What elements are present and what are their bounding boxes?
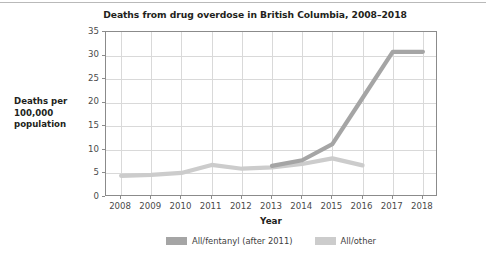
x-tick-mark <box>211 196 212 199</box>
series-line <box>272 52 423 166</box>
legend-label: All/other <box>341 236 377 246</box>
y-axis-label-line-2: 100,000 <box>14 108 74 120</box>
y-axis-label: Deaths per 100,000 population <box>14 96 74 131</box>
x-tick-mark <box>422 196 423 199</box>
x-tick-mark <box>362 196 363 199</box>
x-tick-label: 2014 <box>284 202 318 211</box>
x-tick-mark <box>180 196 181 199</box>
chart-figure: Deaths from drug overdose in British Col… <box>0 0 486 270</box>
x-tick-mark <box>271 196 272 199</box>
y-tick-label: 35 <box>73 27 99 36</box>
y-tick-label: 5 <box>73 168 99 177</box>
y-tick-label: 0 <box>73 192 99 201</box>
chart-title: Deaths from drug overdose in British Col… <box>80 9 430 20</box>
series-line <box>121 158 362 175</box>
legend-label: All/fentanyl (after 2011) <box>192 236 293 246</box>
x-tick-label: 2018 <box>405 202 439 211</box>
legend-entry[interactable]: All/other <box>315 236 377 246</box>
x-tick-label: 2010 <box>163 202 197 211</box>
x-tick-label: 2016 <box>345 202 379 211</box>
plot-area <box>105 31 437 196</box>
legend-swatch <box>315 237 336 245</box>
x-tick-mark <box>150 196 151 199</box>
x-tick-label: 2015 <box>314 202 348 211</box>
x-tick-mark <box>392 196 393 199</box>
source-credit-wrapper: INFORMATION FROM BELZAK & HALVERSON, 201… <box>448 40 478 255</box>
x-tick-label: 2012 <box>224 202 258 211</box>
x-tick-label: 2013 <box>254 202 288 211</box>
series-layer <box>106 32 438 197</box>
x-tick-mark <box>301 196 302 199</box>
y-tick-label: 30 <box>73 50 99 59</box>
x-tick-mark <box>241 196 242 199</box>
y-tick-label: 10 <box>73 145 99 154</box>
x-tick-label: 2017 <box>375 202 409 211</box>
legend-entry[interactable]: All/fentanyl (after 2011) <box>166 236 293 246</box>
y-tick-label: 15 <box>73 121 99 130</box>
x-tick-mark <box>120 196 121 199</box>
x-tick-label: 2011 <box>194 202 228 211</box>
top-divider <box>0 2 486 3</box>
chart-legend: All/fentanyl (after 2011)All/other <box>105 236 437 246</box>
y-tick-label: 25 <box>73 74 99 83</box>
legend-swatch <box>166 237 187 245</box>
x-tick-label: 2009 <box>133 202 167 211</box>
y-tick-label: 20 <box>73 97 99 106</box>
x-tick-label: 2008 <box>103 202 137 211</box>
y-axis-label-line-3: population <box>14 119 74 131</box>
x-tick-mark <box>331 196 332 199</box>
x-axis-label: Year <box>105 216 437 226</box>
y-axis-label-line-1: Deaths per <box>14 96 74 108</box>
y-tick-mark <box>102 196 105 197</box>
